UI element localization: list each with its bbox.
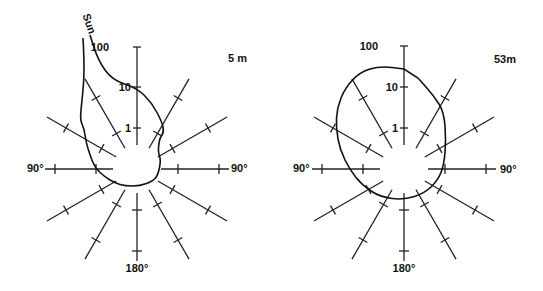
radial-tick [441,238,450,243]
radial-tick [437,185,442,194]
tick-label-100-right: 100 [360,40,378,52]
chart-title-53m: 53m [494,53,516,65]
spoke-240 [47,181,116,221]
tick-label-10-right: 10 [386,81,398,93]
radial-tick [153,202,162,207]
tick-label-1-right: 1 [392,122,398,134]
polar-chart-53m [312,46,496,261]
spoke-150 [149,190,189,259]
radial-tick [170,144,175,153]
radial-tick [379,131,388,136]
tick-label-1-left: 1 [125,122,131,134]
radial-tick [330,206,335,215]
radial-tick [359,238,368,243]
spoke-120 [158,181,227,221]
radial-tick [99,185,104,194]
angle-label-90-left-east: 90° [231,162,248,174]
spoke-60 [158,117,227,157]
radial-tick [441,95,450,100]
polar-chart-5m [45,35,229,261]
spoke-300 [314,117,383,157]
tick-label-10-left: 10 [119,81,131,93]
radial-tick [359,95,368,100]
angle-label-180-left: 180° [126,262,149,274]
radial-tick [63,206,68,215]
spoke-30 [416,79,456,148]
tick-label-100-left: 100 [91,41,109,53]
radial-tick [63,124,68,133]
polar-charts: 100 10 1 90° 90° 180° 5 m Sun 100 10 1 9… [0,0,543,291]
radial-tick [99,144,104,153]
spoke-120 [425,181,494,221]
angle-label-90-right-west: 90° [293,162,310,174]
radial-tick [112,131,121,136]
spoke-210 [85,190,125,259]
radial-tick [153,131,162,136]
spoke-210 [352,190,392,259]
angle-label-90-right-east: 90° [500,163,517,175]
radial-tick [174,238,183,243]
spoke-150 [416,190,456,259]
sun-annotation: Sun [81,12,99,36]
radial-tick [170,185,175,194]
radial-tick [206,206,211,215]
spoke-60 [425,117,494,157]
angle-label-90-left-west: 90° [27,162,44,174]
pattern-outline [81,35,164,186]
radial-tick [420,202,429,207]
radial-tick [473,124,478,133]
chart-title-5m: 5 m [228,52,247,64]
radial-tick [437,144,442,153]
radial-tick [92,95,101,100]
radial-tick [379,202,388,207]
angle-label-180-right: 180° [393,262,416,274]
radial-tick [473,206,478,215]
radial-tick [330,124,335,133]
spoke-240 [314,181,383,221]
radial-tick [366,144,371,153]
radial-tick [112,202,121,207]
spoke-30 [149,79,189,148]
radial-tick [92,238,101,243]
radial-tick [174,95,183,100]
radial-tick [206,124,211,133]
radial-tick [420,131,429,136]
